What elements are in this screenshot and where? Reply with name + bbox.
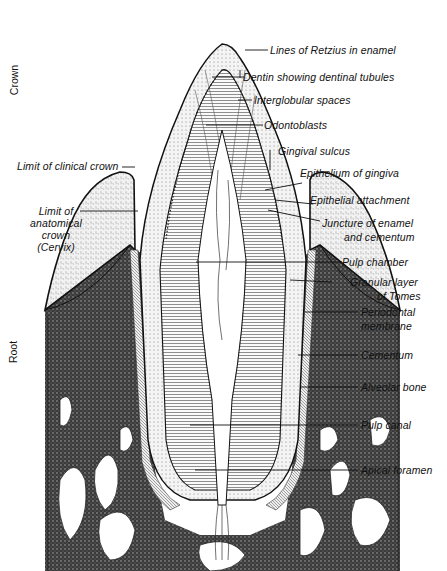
label-limit-clinical-crown: Limit of clinical crown xyxy=(17,160,119,172)
label-apical-foramen: Apical foramen xyxy=(361,464,432,476)
label-periodontal-2: membrane xyxy=(361,320,412,332)
label-pulp-canal: Pulp canal xyxy=(361,419,411,431)
label-alveolar-bone: Alveolar bone xyxy=(361,381,427,393)
label-epithelial-attachment: Epithelial attachment xyxy=(310,194,410,206)
root-side-label: Root xyxy=(7,337,19,367)
label-dentin: Dentin showing dentinal tubules xyxy=(243,71,394,83)
label-epithelium-gingiva: Epithelium of gingiva xyxy=(300,167,399,179)
label-juncture-2: and cementum xyxy=(344,231,415,243)
label-cementum: Cementum xyxy=(361,349,413,361)
label-pulp-chamber: Pulp chamber xyxy=(342,256,408,268)
label-limit-anatomical-4: (Cervix) xyxy=(26,241,86,253)
label-juncture-1: Juncture of enamel xyxy=(322,217,413,229)
tooth-diagram: Crown Root Limit of clinical crown Limit… xyxy=(0,0,447,571)
label-gingival-sulcus: Gingival sulcus xyxy=(278,145,350,157)
crown-side-label: Crown xyxy=(8,60,20,100)
label-interglobular: Interglobular spaces xyxy=(254,94,351,106)
label-limit-anatomical-3: crown xyxy=(26,229,86,241)
label-granular-1: Granular layer xyxy=(350,276,418,288)
label-retzius: Lines of Retzius in enamel xyxy=(270,44,396,56)
label-odontoblasts: Odontoblasts xyxy=(264,119,327,131)
label-granular-2: of Tomes xyxy=(377,290,421,302)
label-limit-anatomical-1: Limit of xyxy=(26,205,86,217)
label-limit-anatomical-2: anatomical xyxy=(26,217,86,229)
label-periodontal-1: Periodontal xyxy=(361,306,415,318)
